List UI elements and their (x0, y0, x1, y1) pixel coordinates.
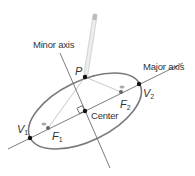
vertex2-subscript: 2 (150, 93, 154, 100)
point-p-label: P (75, 66, 82, 77)
focus2-letter: F (120, 98, 127, 110)
focus1-label: F1 (52, 131, 63, 142)
focus2-subscript: 2 (127, 104, 131, 111)
focus2-pin-icon (119, 86, 125, 95)
string-to-f2 (85, 77, 121, 92)
focus1-letter: F (52, 130, 59, 142)
focus2-label: F2 (120, 99, 131, 110)
center-label: Center (91, 111, 118, 121)
ellipse-diagram (0, 0, 195, 176)
point-p (83, 75, 87, 79)
minor-axis-label: Minor axis (33, 40, 74, 50)
vertex1-point (28, 136, 32, 140)
major-axis-label: Major axis (143, 62, 184, 72)
pencil-icon (86, 14, 95, 74)
vertex1-subscript: 1 (24, 129, 28, 136)
vertex2-point (137, 82, 141, 86)
vertex1-label: V1 (17, 124, 28, 135)
focus1-pin-icon (42, 123, 51, 131)
focus1-subscript: 1 (59, 136, 63, 143)
vertex2-label: V2 (143, 88, 154, 99)
center-point (83, 109, 87, 113)
